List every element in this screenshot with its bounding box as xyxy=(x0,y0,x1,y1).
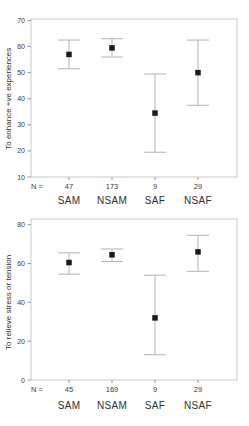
y-tick-label: 70 xyxy=(17,17,25,24)
y-tick-label: 40 xyxy=(17,95,25,102)
category-label: NSAF xyxy=(184,400,212,411)
n-value: 9 xyxy=(153,182,157,191)
y-tick-label: 20 xyxy=(17,147,25,154)
y-tick-label: 0 xyxy=(21,377,25,384)
mean-marker xyxy=(152,315,158,321)
n-value: 9 xyxy=(153,385,157,394)
n-row-prefix: N = xyxy=(31,385,44,394)
mean-marker xyxy=(152,110,158,116)
n-value: 29 xyxy=(194,182,202,191)
plot-frame xyxy=(31,19,237,177)
y-tick-label: 60 xyxy=(17,43,25,50)
category-label: NSAM xyxy=(97,400,127,411)
y-tick-label: 40 xyxy=(17,299,25,306)
category-label: SAM xyxy=(58,195,81,206)
y-tick-label: 80 xyxy=(17,221,25,228)
y-tick-label: 10 xyxy=(17,174,25,181)
chart-enhance-positive-experiences: 10203040506070To enhance +ve experiences… xyxy=(0,0,249,213)
n-value: 47 xyxy=(65,182,73,191)
plot-frame xyxy=(31,219,237,380)
figure-panel: 10203040506070To enhance +ve experiences… xyxy=(0,0,249,426)
n-value: 169 xyxy=(106,385,119,394)
y-tick-label: 30 xyxy=(17,121,25,128)
n-value: 29 xyxy=(194,385,202,394)
y-tick-label: 60 xyxy=(17,260,25,267)
category-label: SAM xyxy=(58,400,81,411)
category-label: NSAF xyxy=(184,195,212,206)
category-label: NSAM xyxy=(97,195,127,206)
n-row-prefix: N = xyxy=(31,182,44,191)
mean-marker xyxy=(195,70,201,76)
mean-marker xyxy=(195,249,201,255)
n-value: 173 xyxy=(106,182,119,191)
y-axis-title: To enhance +ve experiences xyxy=(4,48,13,150)
y-tick-label: 50 xyxy=(17,69,25,76)
mean-marker xyxy=(66,52,72,58)
category-label: SAF xyxy=(145,400,165,411)
y-tick-label: 20 xyxy=(17,338,25,345)
mean-marker xyxy=(109,45,115,51)
n-value: 45 xyxy=(65,385,73,394)
category-label: SAF xyxy=(145,195,165,206)
mean-marker xyxy=(66,260,72,266)
chart-relieve-stress-or-tension: 020406080To relieve stress or tensionN =… xyxy=(0,213,249,426)
mean-marker xyxy=(109,252,115,258)
y-axis-title: To relieve stress or tension xyxy=(4,255,13,350)
